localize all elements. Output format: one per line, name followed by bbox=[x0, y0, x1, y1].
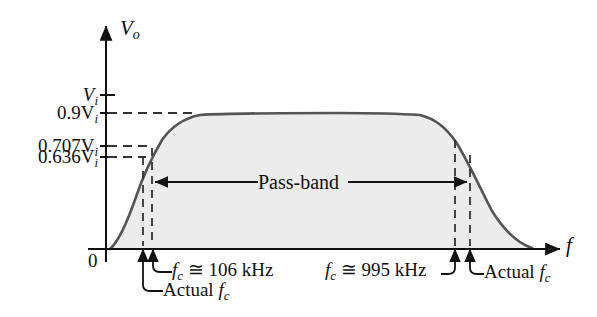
origin-label: 0 bbox=[88, 251, 98, 270]
y-axis-label: Vo bbox=[120, 18, 140, 42]
y-tick-label-0636vi: 0.636Vi bbox=[0, 147, 98, 169]
passband-label: Pass-band bbox=[258, 172, 339, 192]
leader-high-cutoff bbox=[441, 262, 455, 274]
leader-high-actual bbox=[470, 262, 484, 274]
figure-bandpass-response: Vo f 0 Vi 0.9Vi 0.707Vi 0.636Vi Pass-ban… bbox=[0, 0, 597, 317]
annotation-high-actual: Actual fc bbox=[484, 262, 550, 284]
annotation-high-cutoff: fc ≅ 995 kHz bbox=[325, 260, 426, 282]
x-axis-label: f bbox=[566, 235, 572, 256]
annotation-low-actual: Actual fc bbox=[163, 280, 229, 302]
y-tick-label-09vi: 0.9Vi bbox=[0, 103, 98, 125]
leader-low-cutoff bbox=[153, 262, 172, 272]
